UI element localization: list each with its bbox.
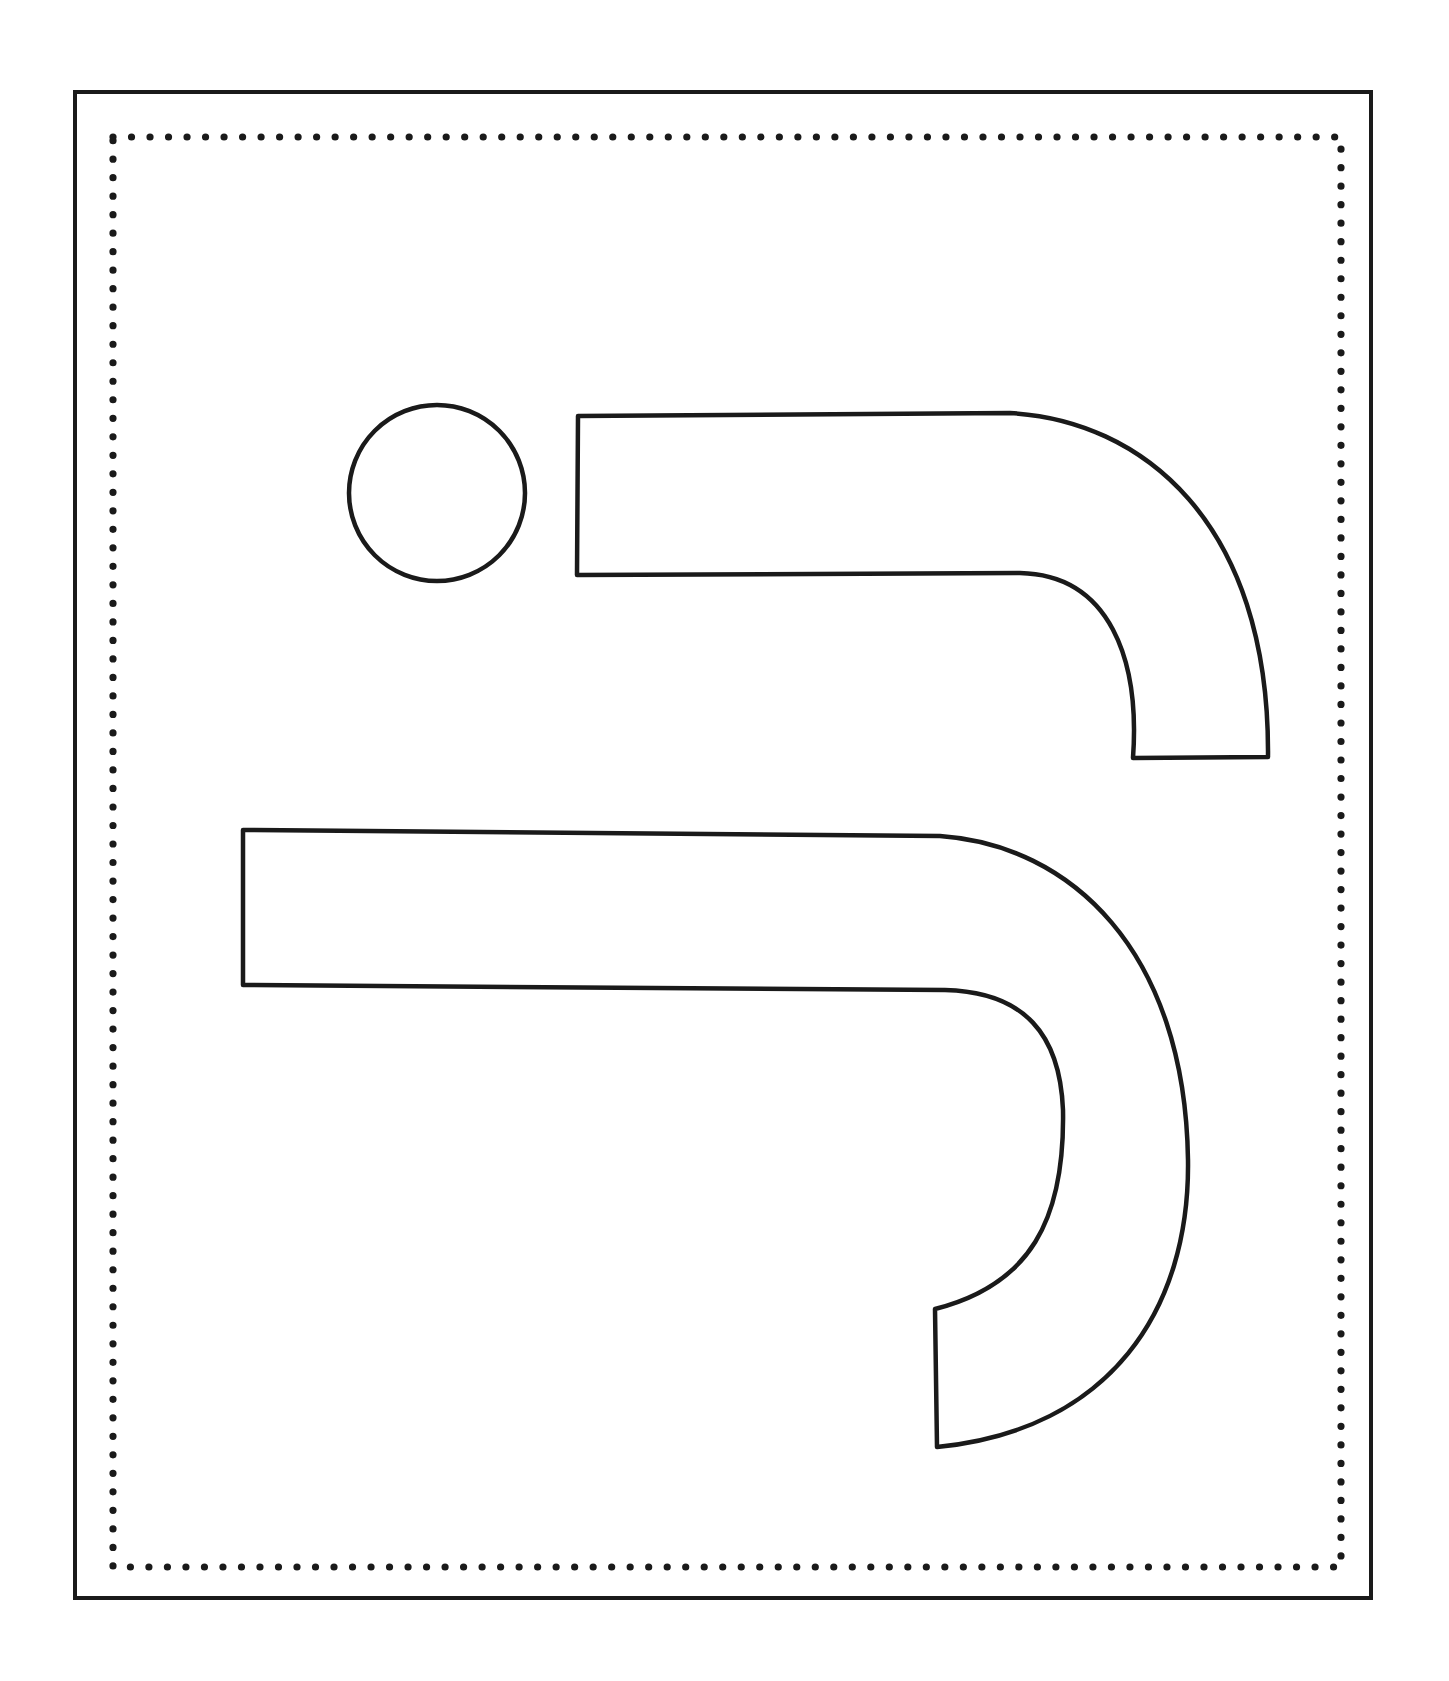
- large-hook-shape-icon: [243, 830, 1188, 1447]
- worksheet-page: [0, 0, 1449, 1681]
- circle-outline-icon: [349, 405, 525, 581]
- small-hook-shape-icon: [577, 413, 1268, 758]
- worksheet-drawing: [0, 0, 1449, 1681]
